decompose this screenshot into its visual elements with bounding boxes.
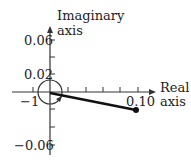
real-label-2: axis: [160, 94, 186, 109]
imaginary-axis-arrow-icon: [47, 26, 53, 33]
y-tick-label-mid: 0.02: [24, 67, 53, 82]
x-tick-label-left: −1: [20, 94, 39, 109]
x-ticks: [33, 87, 138, 92]
nyquist-locus: [50, 93, 136, 110]
real-label-1: Real: [160, 80, 189, 95]
y-tick-label-bottom: −0.06: [14, 138, 54, 153]
nyquist-diagram: Imaginary axis Real axis 0.06 0.02 −0.06…: [0, 0, 191, 167]
x-tick-label-right: 0.10: [126, 94, 155, 109]
imaginary-label-1: Imaginary: [57, 8, 125, 23]
y-tick-label-top: 0.06: [24, 33, 53, 48]
imaginary-label-2: axis: [57, 23, 83, 38]
